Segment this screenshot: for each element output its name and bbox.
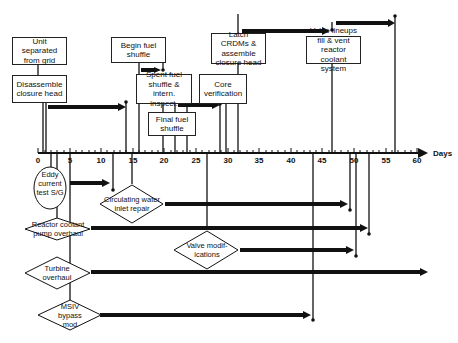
tick-60: 60 xyxy=(413,156,422,165)
final-fuel-shuffle-box: Final fuel shuffle xyxy=(148,112,196,136)
latch-crdms-box: Latch CRDMs & assemble closure head xyxy=(211,33,266,64)
begin-fuel-shuffle-box: Begin fuel shuffle xyxy=(111,37,166,63)
tick-20: 20 xyxy=(160,156,169,165)
tick-15: 15 xyxy=(129,156,138,165)
valve-lineups-box: Valve lineups fill & vent reactor coolan… xyxy=(306,36,361,64)
spent-fuel-shuffle-box: Spent fuel shuffle & intern. inspect. xyxy=(136,74,192,104)
reactor-coolant-pump-diamond: Reactor coolant pump overhaul xyxy=(30,220,86,238)
circulating-water-diamond: Circulating water inlet repair xyxy=(104,195,160,213)
tick-30: 30 xyxy=(224,156,233,165)
turbine-overhaul-diamond: Turbine overhaul xyxy=(36,264,78,282)
tick-45: 45 xyxy=(318,156,327,165)
tick-25: 25 xyxy=(192,156,201,165)
tick-35: 35 xyxy=(255,156,264,165)
axis-title-days: Days xyxy=(433,149,452,158)
unit-separated-box: Unit separated from grid xyxy=(12,37,67,65)
eddy-current-test-ellipse: Eddy current test S/G xyxy=(34,170,66,197)
tick-5: 5 xyxy=(68,156,72,165)
tick-50: 50 xyxy=(350,156,359,165)
tick-55: 55 xyxy=(382,156,391,165)
core-verification-box: Core verification xyxy=(199,74,247,104)
tick-0: 0 xyxy=(36,156,40,165)
msiv-bypass-diamond: MSIV bypass mod xyxy=(52,302,88,329)
disassemble-head-box: Disassemble closure head xyxy=(12,75,67,103)
valve-modifications-diamond: Valve modif- ications xyxy=(186,241,228,259)
tick-40: 40 xyxy=(287,156,296,165)
tick-10: 10 xyxy=(97,156,106,165)
